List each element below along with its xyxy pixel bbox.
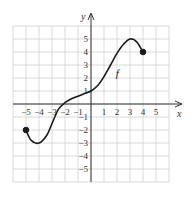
x-axis-label: x <box>176 108 182 119</box>
x-tick-label: −4 <box>34 107 44 117</box>
x-tick-label: −5 <box>21 107 31 117</box>
x-tick-label: 1 <box>102 107 107 117</box>
endpoint-dot <box>23 127 29 133</box>
y-tick-label: 2 <box>84 73 89 83</box>
y-tick-label: −3 <box>78 138 88 148</box>
y-tick-label: 3 <box>84 60 89 70</box>
x-tick-label: 4 <box>141 107 146 117</box>
y-tick-label: −5 <box>78 164 88 174</box>
y-tick-label: 5 <box>84 34 89 44</box>
y-tick-label: 4 <box>84 47 89 57</box>
x-tick-label: 3 <box>128 107 133 117</box>
endpoint-dot <box>140 49 146 55</box>
function-label: f <box>116 67 121 79</box>
y-tick-label: −4 <box>78 151 88 161</box>
x-tick-label: 5 <box>154 107 159 117</box>
x-tick-label: −2 <box>60 107 70 117</box>
y-tick-label: −2 <box>78 125 88 135</box>
y-tick-label: −1 <box>78 112 88 122</box>
axes <box>13 13 182 182</box>
x-tick-label: 2 <box>115 107 120 117</box>
function-graph: −5−4−3−2−11234554321−1−2−3−4−5 x y f <box>0 0 191 197</box>
y-axis-label: y <box>80 11 86 22</box>
